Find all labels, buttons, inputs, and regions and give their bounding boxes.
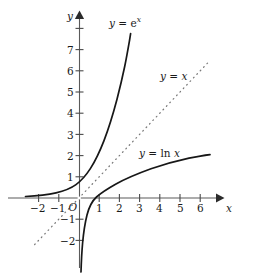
y-tick-label-6: 6 [67,66,74,77]
y-tick-label-3: 3 [67,130,74,141]
x-axis-label: x [226,203,232,214]
curve-label-exponential: y = ex [109,16,141,28]
x-tick-label-5: 5 [177,203,184,214]
curve-exponential [26,34,131,197]
x-tick-label-2: 2 [116,203,123,214]
x-tick-label-1: 1 [96,203,103,214]
x-tick-label-3: 3 [136,203,143,214]
x-tick-label-4: 4 [156,203,163,214]
y-tick-label-5: 5 [67,87,74,98]
x-tick-label-6: 6 [197,203,204,214]
y-tick-label-2: 2 [67,151,74,162]
x-axis-arrow-icon [216,193,225,202]
y-tick-label-7: 7 [67,45,74,56]
y-tick-label--1: −1 [60,214,75,225]
figure-canvas: −2 −1 1 2 3 4 5 6 1 2 3 4 5 6 7 −1 −2 O … [0,0,256,280]
graph-svg [0,0,256,280]
x-tick-label--1: −1 [50,203,65,214]
y-axis-arrow-icon [75,11,84,20]
curve-label-logarithm: y = ln x [139,148,180,159]
x-tick-label--2: −2 [30,203,45,214]
y-tick-label--2: −2 [60,236,75,247]
origin-label: O [69,202,78,213]
y-axis-label: y [67,11,73,22]
curve-label-identity: y = x [160,71,187,82]
y-tick-label-4: 4 [67,108,74,119]
y-tick-label-1: 1 [67,172,74,183]
